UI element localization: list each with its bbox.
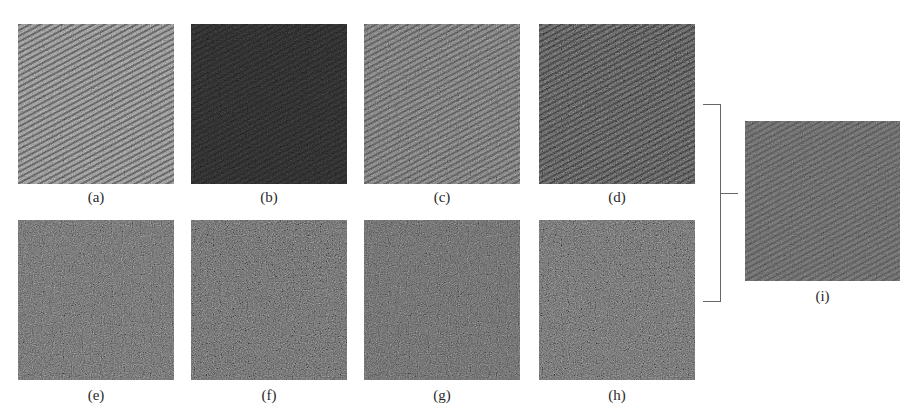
bracket-connector <box>720 193 738 194</box>
panel-a-image <box>18 24 174 184</box>
panel-f-label: (f) <box>191 386 347 404</box>
panel-h-label: (h) <box>539 386 695 404</box>
panel-h-image <box>539 220 695 380</box>
panel-i-image <box>745 121 900 281</box>
panel-d-image <box>539 24 695 184</box>
panel-i-label: (i) <box>745 287 900 305</box>
panel-g-label: (g) <box>364 386 520 404</box>
panel-c-image <box>364 24 520 184</box>
panel-c-label: (c) <box>364 188 520 206</box>
panel-e-image <box>18 220 174 380</box>
panel-e-label: (e) <box>18 386 174 404</box>
grouping-bracket <box>703 104 721 302</box>
panel-g-image <box>364 220 520 380</box>
panel-b-image <box>191 24 347 184</box>
panel-f-image <box>191 220 347 380</box>
panel-d-label: (d) <box>539 188 695 206</box>
panel-b-label: (b) <box>191 188 347 206</box>
panel-a-label: (a) <box>18 188 174 206</box>
